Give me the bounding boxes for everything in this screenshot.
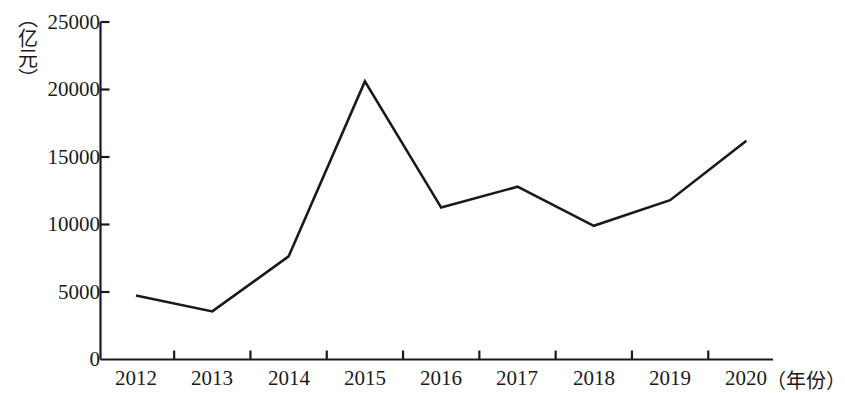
data-series-line bbox=[136, 81, 746, 311]
line-chart: （亿元） （年份） 25000 20000 15000 10000 5000 0… bbox=[0, 0, 845, 393]
x-axis-ticks bbox=[174, 351, 708, 360]
y-axis-ticks bbox=[101, 22, 110, 292]
plot-area bbox=[0, 0, 845, 393]
